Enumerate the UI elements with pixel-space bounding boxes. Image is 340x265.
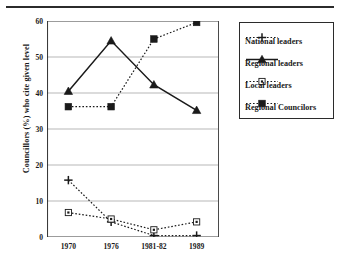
legend-marker-sample <box>245 72 329 81</box>
y-tick-label: 50 <box>35 53 43 62</box>
open-square-marker-core <box>110 218 112 220</box>
y-axis-title: Councillors (%) who cite given level <box>22 29 31 189</box>
x-tick-label: 1976 <box>104 242 119 251</box>
legend-label: Regional Councilors <box>245 103 329 113</box>
filled-square-marker <box>151 36 158 43</box>
filled-square-marker <box>108 103 115 110</box>
filled-square-marker <box>65 103 72 110</box>
chart-page: Councillors (%) who cite given level 010… <box>0 0 340 265</box>
open-square-marker-core <box>67 211 69 213</box>
x-tick-label: 1981-82 <box>141 242 166 251</box>
legend-label: National leaders <box>245 37 329 47</box>
y-tick-label: 20 <box>35 161 43 170</box>
plot-svg <box>47 21 218 237</box>
series-regional-leaders <box>64 37 201 114</box>
series-line <box>68 41 196 110</box>
y-tick-label: 10 <box>35 197 43 206</box>
series-regional-councilors <box>65 21 200 110</box>
series-local-leaders <box>65 209 199 232</box>
page-divider-rule <box>6 6 334 8</box>
series-national-leaders <box>64 176 201 237</box>
legend-entry[interactable]: National leaders <box>245 28 329 47</box>
legend-marker-sample <box>245 94 329 103</box>
legend-entry[interactable]: Regional leaders <box>245 50 329 69</box>
y-tick-label: 30 <box>35 125 43 134</box>
open-square-marker-core <box>196 221 198 223</box>
x-tick-label: 1989 <box>189 242 204 251</box>
legend-marker-sample <box>245 28 329 37</box>
series-line <box>68 22 196 106</box>
series-line <box>68 213 196 230</box>
series-line <box>68 180 196 235</box>
y-tick-label: 0 <box>39 233 43 242</box>
triangle-marker <box>192 106 200 113</box>
legend-marker-sample <box>245 50 329 59</box>
legend-entry[interactable]: Local leaders <box>245 72 329 91</box>
legend-entry[interactable]: Regional Councilors <box>245 94 329 113</box>
legend-label: Local leaders <box>245 81 329 91</box>
plot-area: 0102030405060 197019761981-821989 <box>47 21 219 237</box>
chart-legend: National leadersRegional leadersLocal le… <box>239 22 334 119</box>
line-chart-figure: Councillors (%) who cite given level 010… <box>0 12 340 265</box>
legend-label: Regional leaders <box>245 59 329 69</box>
y-tick-label: 40 <box>35 89 43 98</box>
y-tick-label: 60 <box>35 17 43 26</box>
filled-square-marker <box>193 21 200 26</box>
open-square-marker-core <box>153 229 155 231</box>
x-tick-label: 1970 <box>61 242 76 251</box>
triangle-marker <box>107 37 115 44</box>
